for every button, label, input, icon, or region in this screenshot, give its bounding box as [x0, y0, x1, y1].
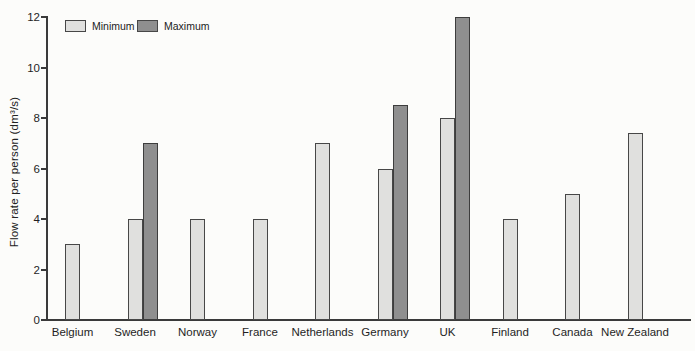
y-tick-mark-4	[41, 218, 47, 220]
y-tick-mark-8	[41, 117, 47, 119]
y-tick-label-0: 0	[12, 314, 40, 326]
y-tick-mark-2	[41, 269, 47, 271]
bar-maximum-germany	[393, 105, 408, 320]
bar-minimum-germany	[378, 169, 393, 321]
bar-minimum-canada	[565, 194, 580, 320]
legend-item-maximum: Maximum	[137, 20, 210, 32]
y-tick-label-2: 2	[12, 264, 40, 276]
x-label-new-zealand: New Zealand	[590, 326, 680, 338]
y-tick-label-4: 4	[12, 213, 40, 225]
y-tick-mark-12	[41, 16, 47, 18]
y-tick-mark-0	[41, 319, 47, 321]
flow-rate-bar-chart-figure: Flow rate per person (dm³/s) 024681012Be…	[0, 0, 695, 351]
legend-item-minimum: Minimum	[65, 20, 135, 32]
bar-minimum-netherlands	[315, 143, 330, 320]
legend-swatch-minimum	[65, 20, 86, 32]
y-tick-mark-10	[41, 67, 47, 69]
bar-minimum-belgium	[65, 244, 80, 320]
y-tick-label-8: 8	[12, 112, 40, 124]
bar-minimum-uk	[440, 118, 455, 320]
bar-minimum-norway	[190, 219, 205, 320]
y-tick-label-10: 10	[12, 62, 40, 74]
bar-maximum-sweden	[143, 143, 158, 320]
legend-label-maximum: Maximum	[164, 20, 210, 32]
y-tick-label-6: 6	[12, 163, 40, 175]
bar-minimum-new-zealand	[628, 133, 643, 320]
legend-swatch-maximum	[137, 20, 158, 32]
bar-minimum-france	[253, 219, 268, 320]
bar-minimum-sweden	[128, 219, 143, 320]
y-tick-mark-6	[41, 168, 47, 170]
legend-label-minimum: Minimum	[92, 20, 135, 32]
bar-minimum-finland	[503, 219, 518, 320]
y-tick-label-12: 12	[12, 11, 40, 23]
bar-maximum-uk	[455, 17, 470, 320]
